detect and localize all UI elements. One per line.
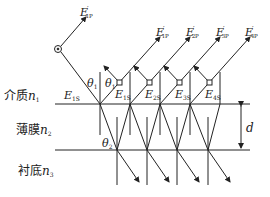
label-theta2: θ2 [102,138,112,150]
label-e1p: E′1P [156,26,169,40]
label-e1p-left: E′1P [80,6,93,20]
label-e4p: E′4P [245,26,258,40]
label-e2s: E2S [145,89,161,101]
layer-label-substrate: 衬底n3 [18,162,54,178]
thickness-label: d [246,122,254,134]
label-theta1-right: θ1 [105,78,115,90]
layer-label-film: 薄膜n2 [16,121,52,137]
label-e1s-incident: E1S [64,90,80,102]
label-e3p: E′3P [216,26,229,40]
label-e4s: E4S [205,89,221,101]
transmitted-ray [117,150,139,182]
label-e2p: E′2P [186,26,199,40]
label-theta1-left: θ1 [87,78,97,90]
reflected-ray-e1p-left [61,17,86,46]
layer-label-medium: 介质n1 [4,87,40,103]
label-e1s: E1S [115,89,131,101]
label-e3s: E3S [175,89,191,101]
